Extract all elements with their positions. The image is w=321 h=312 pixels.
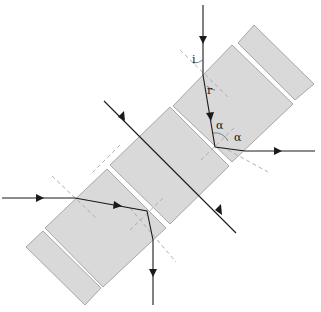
arrow-icon <box>199 36 207 44</box>
optics-diagram: i r α α <box>0 0 321 312</box>
arrow-icon <box>118 111 125 121</box>
label-refraction-angle: r <box>207 84 213 97</box>
diagram-canvas: i r α α <box>0 0 321 312</box>
label-alpha-1: α <box>216 119 224 132</box>
label-incidence-angle: i <box>192 53 196 66</box>
arrow-icon <box>36 194 44 202</box>
arrow-icon <box>149 269 157 277</box>
label-alpha-2: α <box>234 131 242 144</box>
arrow-icon <box>274 147 282 155</box>
